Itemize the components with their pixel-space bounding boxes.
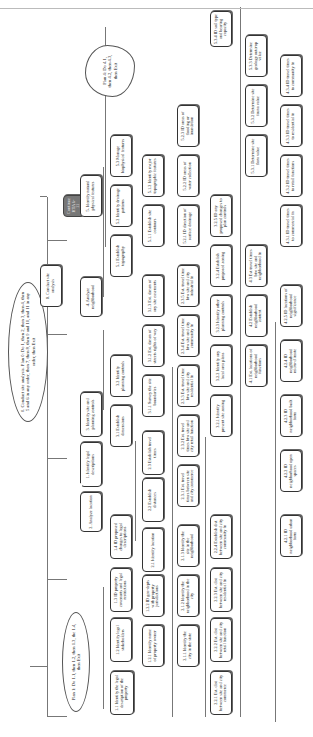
node-1-2-1: 1.2.1 Identify name of property owner <box>142 625 164 667</box>
node-2-2-4: 2.2.4 Establish dist between site and ci… <box>210 515 232 559</box>
hta-diagram: Plan 1: Do 1.1, then 1.2, then 1.3, the … <box>0 0 313 737</box>
node-5-2: 5.2 Identify drainage patterns <box>110 185 132 227</box>
connector <box>135 441 136 541</box>
connector <box>205 437 206 717</box>
node-2-1-3: 2.1.3 Identify the site in the neighborh… <box>177 525 199 567</box>
node-4-3-2: 4.3.2 ID travel times to retail function… <box>280 155 302 197</box>
connector <box>47 458 67 459</box>
connector <box>47 579 67 580</box>
node-2-3-5: 2.3.5 Est. travel time btw site and city… <box>177 265 199 307</box>
node-3-1-1: 3.1.1 Survey the site boundaries <box>142 375 164 417</box>
node-2-2-2: 2.2.2 Est. dist between site and city re… <box>210 618 232 662</box>
node-5-3-1: 5.3.1 Determine site flora value <box>245 135 267 177</box>
node-4-3: 4.3 Est travel times btw site and neighb… <box>245 245 267 287</box>
node-1-1: 1.1 Identify the legal description of th… <box>110 671 134 715</box>
node-4: 4. Analyze neighborhood <box>80 277 102 317</box>
node-4-3-1: 4.3.1 ID travel times to commercial fn <box>280 205 302 247</box>
node-5-1-1: 5.1.1 Establish site contours <box>142 205 164 247</box>
connector <box>240 7 241 717</box>
connector <box>47 334 67 335</box>
node-5-1-2: 5.1.2 Identify major topographic feature… <box>142 155 164 197</box>
connector <box>47 240 67 241</box>
node-1-3: 1.3 ID property covenants and legal rest… <box>110 568 132 612</box>
node-2-analyze-location-box: 2. Analyze location <box>80 492 102 532</box>
plan-1-note: Plan 1: Do 1.1, then 1.2, then 1.3, the … <box>62 612 90 712</box>
node-3-2: 3.2 Identify planning controls <box>110 355 132 397</box>
plan-4-note: Plan 4: Do 4.1, then 4.2, then 4.3, then… <box>85 45 135 97</box>
node-2-1: 2.1 Identify location <box>142 528 164 572</box>
node-4-3-4: 4.3.4 ID travel times to community fn <box>280 55 302 97</box>
node-5-3-4: 5.3.4 ID soil type and bearing capacity <box>210 11 232 47</box>
connector <box>40 196 47 197</box>
node-2-3-3: 2.3.3 Est. travel time btw site and city… <box>177 365 199 407</box>
node-2-2-3: 2.2.3 Est. dist between site and city re… <box>210 568 232 612</box>
node-4-1: 4.1 Est. locations of neighborhood funct… <box>245 345 267 387</box>
node-3-2-3: 3.2.3 Identify other planning controls <box>210 295 232 337</box>
connector <box>47 716 67 717</box>
node-3-2-5: 3.2.5 ID any proposed changes to plan co… <box>210 195 232 237</box>
node-4-2-5: 4.2.5 ID locations of neighborhood signi… <box>280 285 302 327</box>
connector <box>172 367 173 717</box>
node-2-3-2: 2.3.2 Est. travel times btw site and cit… <box>177 415 199 457</box>
node-2 <box>80 487 82 491</box>
node-0-conduct-site-analysis: 0. Conduct site analysis <box>40 265 62 307</box>
node-1: 1. Identify legal descriptions <box>80 442 102 487</box>
node-4-2-3: 4.2.3 ID neighborhood built form <box>280 395 302 437</box>
node-3-2-1: 3.2.1 Identify present site zoning <box>210 395 232 437</box>
connector <box>275 322 276 722</box>
node-5-2-1: 5.2.1 ID direction of surface drainage <box>177 205 199 247</box>
node-2-3: 2.3 Establish travel times <box>142 431 164 475</box>
node-5: 5. Identify natural physical features <box>80 175 102 217</box>
connector <box>103 167 104 297</box>
node-5-2-3: 5.2.3 ID areas of flooding or inundation <box>177 105 199 147</box>
connector <box>103 587 104 709</box>
node-4-2-1: 4.2.1 ID neighborhood urban form <box>280 515 302 557</box>
node-3-2-4: 3.2.4 Establish proposed zoning <box>210 245 232 287</box>
node-3: 3. Identify site and planning controls <box>80 392 102 437</box>
node-3-1: 3.1 Establish dimensions <box>110 405 132 447</box>
node-5-1: 5.1 Establish topography <box>110 235 132 277</box>
node-2-1-2: 2.1.2 Identify the neighborhood in the c… <box>177 575 199 617</box>
node-2-2-1: 2.2.1 Est. dist between site and city co… <box>210 671 232 715</box>
node-5-3: 5.3 Manage biophysical features <box>110 135 132 177</box>
node-4-2-2: 4.2.2 ID neighborhood open spaces <box>280 450 302 492</box>
node-5-3-3: 5.3.3 Determine geology outcrop value <box>245 35 267 77</box>
node-5-3-2: 5.3.2 Determine site fauna value <box>245 85 267 127</box>
node-2-2: 2.2 Establish distances <box>142 478 164 522</box>
node-3-1-3: 3.1.3 Est. dimen of any site easements <box>142 275 164 317</box>
node-1-2-2: 1.2.2 ID geo-depts with property jurisdi… <box>142 575 164 617</box>
node-1-4: 1.4 ID proposed changes to legal descrip… <box>110 515 132 559</box>
node-3-2-2: 3.2.2 Identify any local area plans <box>210 345 232 387</box>
node-2-3-1: 2.3.1 Est. travel times between site and… <box>177 465 199 507</box>
node-5-2-2: 5.2.2 ID areas of water collection <box>177 155 199 197</box>
connector <box>30 666 47 667</box>
node-4-3-3: 4.3.3 ID travel times to residential fn <box>280 105 302 147</box>
page-edge <box>0 8 313 9</box>
node-2-1-1: 2.1.1 Identify the city in the state <box>177 625 199 667</box>
node-4-2-4: 4.2.4 ID neighborhood micro-climate <box>280 340 302 382</box>
node-3-1-2: 3.1.2 Est. dimen of streets rights of wa… <box>142 325 164 367</box>
node-4-2: 4.2 Establish neighborhood context <box>245 295 267 337</box>
connector <box>103 330 104 410</box>
node-1-2: 1.2 Identify legal stakeholders <box>110 618 132 662</box>
node-2-3-4: 2.3.4 Est. travel time btw site and city… <box>177 315 199 357</box>
